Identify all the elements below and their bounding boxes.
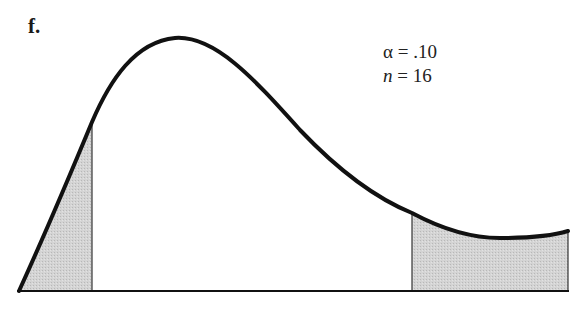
n-value: = 16 — [393, 65, 432, 86]
n-variable: n — [383, 65, 393, 86]
chi-square-figure: f. α = .10 n = 16 — [0, 0, 585, 312]
panel-label: f. — [28, 14, 40, 39]
density-plot — [0, 0, 585, 312]
n-annotation: n = 16 — [383, 65, 432, 87]
alpha-annotation: α = .10 — [383, 41, 437, 63]
